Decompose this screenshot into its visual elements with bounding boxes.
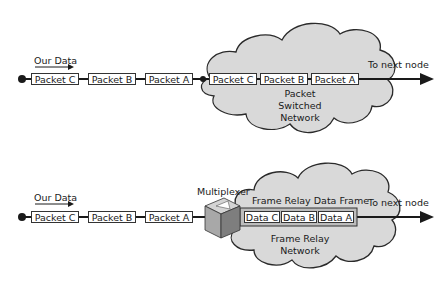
diagram-graphics	[0, 0, 441, 288]
cloud-packet-b: Packet B	[260, 73, 308, 85]
frame-data-a: Data A	[318, 211, 354, 223]
cloud-label-line1: Frame Relay	[265, 233, 335, 244]
source-node-icon	[18, 213, 26, 221]
cloud-label-line1: Packet	[270, 88, 330, 99]
input-packet-c: Packet C	[31, 73, 79, 85]
input-packet-a: Packet A	[145, 211, 193, 223]
multiplexer-label: Multiplexer	[197, 186, 250, 197]
cloud-label-line2: Network	[265, 245, 335, 256]
cloud-label-line3: Network	[270, 112, 330, 123]
input-packet-a: Packet A	[145, 73, 193, 85]
frame-data-b: Data B	[281, 211, 317, 223]
input-packet-b: Packet B	[88, 73, 136, 85]
arrow-head-icon	[420, 73, 434, 85]
to-next-node-label: To next node	[368, 197, 429, 208]
frame-data-c: Data C	[244, 211, 280, 223]
cloud-packet-c: Packet C	[209, 73, 257, 85]
input-packet-b: Packet B	[88, 211, 136, 223]
our-data-label: Our Data	[34, 192, 77, 203]
cloud-label-line2: Switched	[270, 100, 330, 111]
input-packet-c: Packet C	[31, 211, 79, 223]
our-data-label: Our Data	[34, 55, 77, 66]
frame-relay-frame-label: Frame Relay Data Frame	[252, 195, 369, 206]
to-next-node-label: To next node	[368, 59, 429, 70]
cloud-entry-node-icon	[200, 76, 206, 82]
source-node-icon	[18, 75, 26, 83]
cloud-packet-a: Packet A	[311, 73, 359, 85]
multiplexer-icon	[205, 198, 240, 238]
arrow-head-icon	[420, 211, 434, 223]
